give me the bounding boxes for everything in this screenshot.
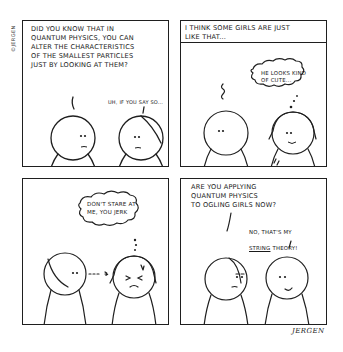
girl-hair (141, 116, 161, 143)
motion-marks (274, 159, 279, 165)
girl-head (119, 116, 163, 160)
comic-panel-3: DON'T STARE AT ME, YOU JERK (22, 178, 169, 325)
frown (130, 286, 138, 288)
boy-smile (285, 288, 292, 290)
girl-thought-text: HE LOOKS KIND OF CUTE... (261, 70, 306, 84)
comic-panel-1: DID YOU KNOW THAT IN QUANTUM PHYSICS, YO… (22, 20, 169, 167)
comic-panel-4: ARE YOU APPLYING QUANTUM PHYSICS TO OGLI… (180, 178, 327, 325)
boy-body (204, 149, 248, 167)
girl-hair (110, 256, 156, 283)
girl-hair (269, 112, 316, 139)
comic-panel-2: I THINK SOME GIRLS ARE JUST LIKE THAT...… (180, 20, 327, 167)
panel-2-illustration (181, 21, 327, 167)
thought-dot (134, 239, 136, 241)
speech-tail-girl (143, 107, 144, 113)
boy-head (44, 253, 86, 295)
copyright-label: ©JERGEN (10, 25, 16, 52)
thought-dot (134, 249, 136, 251)
boy-head (204, 111, 248, 155)
thought-dot (135, 244, 137, 246)
panel-4-illustration (181, 179, 327, 325)
gaze-arrow-icon (89, 272, 108, 276)
speech-tail-boy (289, 241, 291, 248)
speech-tail-boy (72, 97, 74, 109)
angry-eyes (126, 276, 142, 280)
angry-mark (141, 265, 144, 270)
girl-mouth (232, 287, 237, 288)
thought-dot (296, 95, 298, 97)
girl-thought-text: DON'T STARE AT ME, YOU JERK (87, 200, 136, 216)
speech-tail-girl (227, 213, 231, 231)
boy-hair (48, 259, 68, 287)
boy-head (51, 116, 95, 160)
artist-signature: JERGEN (292, 327, 324, 335)
thought-dot (293, 100, 295, 102)
boy-head (266, 257, 308, 299)
thoughtful-squiggle-icon (222, 84, 225, 99)
girl-hair (229, 258, 241, 283)
panel-1-illustration (23, 21, 169, 167)
thought-dot (290, 106, 293, 109)
